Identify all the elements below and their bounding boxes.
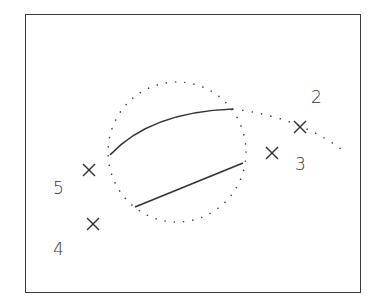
point-label-3: 3 bbox=[295, 156, 306, 173]
cross-marker-icon bbox=[87, 218, 99, 230]
point-label-5: 5 bbox=[53, 180, 64, 197]
point-markers bbox=[83, 121, 306, 230]
cross-marker-icon bbox=[294, 121, 306, 133]
diagram-canvas: 2 3 5 4 bbox=[0, 0, 380, 302]
solid-lower-line bbox=[135, 163, 243, 207]
solid-upper-arc bbox=[110, 109, 233, 155]
point-label-4: 4 bbox=[53, 241, 64, 258]
point-label-2: 2 bbox=[311, 89, 322, 106]
dotted-tail-curve bbox=[233, 109, 345, 152]
cross-marker-icon bbox=[266, 147, 278, 159]
cross-marker-icon bbox=[83, 164, 95, 176]
dotted-circle bbox=[108, 82, 246, 222]
